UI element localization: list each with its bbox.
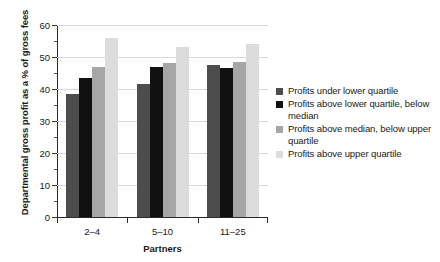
- y-axis-tick: [52, 57, 57, 58]
- bar: [79, 78, 92, 217]
- y-axis-tick: [52, 153, 57, 154]
- legend-item-label: Profits above upper quartile: [288, 148, 401, 160]
- plot-area: 01020304050602–45–1011–25: [57, 25, 268, 218]
- bar: [105, 38, 118, 217]
- y-axis-tick-label: 0: [45, 212, 50, 223]
- x-axis-line: [57, 217, 268, 218]
- x-axis-tick: [267, 218, 268, 223]
- y-axis-tick-label: 30: [39, 116, 50, 127]
- bar: [220, 68, 233, 217]
- legend-item-label: Profits above lower quartile, below medi…: [288, 98, 438, 122]
- legend-swatch-icon: [276, 101, 283, 108]
- y-axis-tick-label: 50: [39, 52, 50, 63]
- bar-group: [66, 25, 118, 217]
- legend-item: Profits above lower quartile, below medi…: [276, 98, 438, 122]
- bar: [150, 67, 163, 217]
- y-axis-tick: [52, 89, 57, 90]
- y-axis-tick: [52, 25, 57, 26]
- bar: [207, 65, 220, 217]
- x-axis-tick: [127, 218, 128, 223]
- bar: [233, 62, 246, 217]
- bar: [137, 84, 150, 217]
- y-axis-tick: [52, 185, 57, 186]
- y-axis-tick-label: 60: [39, 20, 50, 31]
- bar: [176, 47, 189, 217]
- bar-group: [207, 25, 259, 217]
- y-axis-tick-label: 20: [39, 148, 50, 159]
- legend-item: Profits above median, below upper quarti…: [276, 123, 438, 147]
- legend-item: Profits above upper quartile: [276, 148, 438, 160]
- y-axis-minor-tick: [54, 201, 57, 202]
- x-axis-tick: [198, 218, 199, 223]
- y-axis-minor-tick: [54, 137, 57, 138]
- bar: [246, 44, 259, 217]
- y-axis-minor-tick: [54, 41, 57, 42]
- y-axis-tick-label: 40: [39, 84, 50, 95]
- x-axis-tick: [57, 218, 58, 223]
- x-axis-tick-label: 11–25: [220, 226, 246, 237]
- legend-swatch-icon: [276, 151, 283, 158]
- chart-legend: Profits under lower quartileProfits abov…: [276, 85, 438, 161]
- bar: [66, 94, 79, 217]
- y-axis-title: Departmental gross profit as a % of gros…: [19, 5, 30, 220]
- y-axis-minor-tick: [54, 169, 57, 170]
- legend-swatch-icon: [276, 126, 283, 133]
- legend-item-label: Profits above median, below upper quarti…: [288, 123, 438, 147]
- legend-item: Profits under lower quartile: [276, 85, 438, 97]
- bar-chart-figure: Departmental gross profit as a % of gros…: [0, 0, 440, 262]
- legend-item-label: Profits under lower quartile: [288, 85, 398, 97]
- y-axis-minor-tick: [54, 73, 57, 74]
- y-axis-minor-tick: [54, 105, 57, 106]
- x-axis-tick-label: 5–10: [152, 226, 173, 237]
- x-axis-title: Partners: [57, 243, 268, 254]
- y-axis-tick: [52, 121, 57, 122]
- y-axis-tick-label: 10: [39, 180, 50, 191]
- bar: [163, 63, 176, 217]
- bar-group: [137, 25, 189, 217]
- bar: [92, 67, 105, 217]
- x-axis-tick-label: 2–4: [84, 226, 100, 237]
- legend-swatch-icon: [276, 88, 283, 95]
